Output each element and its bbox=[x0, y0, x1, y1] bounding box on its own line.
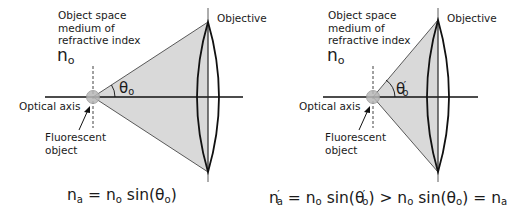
formula-function: sin( bbox=[127, 186, 155, 204]
object-label-line: Fluorescent bbox=[325, 131, 386, 144]
formula-term: n bbox=[306, 189, 316, 207]
formula-left: na = no sin(θo) bbox=[67, 186, 177, 209]
fluorescent-object-right bbox=[367, 91, 380, 104]
formula-term: n bbox=[491, 189, 501, 207]
formula-subscript: a bbox=[77, 194, 83, 205]
theta-subscript: o bbox=[128, 86, 134, 97]
formula-term: n bbox=[397, 189, 407, 207]
medium-label-line: refractive index bbox=[58, 34, 141, 47]
medium-label-line: medium of bbox=[328, 22, 411, 35]
formula-paren: ) bbox=[462, 189, 468, 207]
object-label-line: object bbox=[45, 144, 106, 157]
medium-label-line: refractive index bbox=[328, 34, 411, 47]
arrow-head-right bbox=[364, 106, 370, 113]
theta-symbol: θ bbox=[119, 79, 128, 97]
objective-label-right: Objective bbox=[447, 12, 497, 25]
object-label-line: object bbox=[325, 144, 386, 157]
objective-label-left: Objective bbox=[217, 12, 267, 25]
formula-subscript: a bbox=[277, 196, 283, 207]
medium-index-symbol-right: no bbox=[327, 47, 345, 69]
formula-operator: = bbox=[88, 186, 101, 204]
formula-function: sin( bbox=[327, 189, 355, 207]
fluorescent-object-label-right: Fluorescent object bbox=[325, 131, 386, 156]
optical-axis-label-right: Optical axis bbox=[299, 100, 360, 113]
formula-term: θ bbox=[155, 186, 164, 204]
fluorescent-object-label-left: Fluorescent object bbox=[45, 131, 106, 156]
formula-paren: ) bbox=[171, 186, 177, 204]
n-symbol: n bbox=[57, 45, 68, 65]
object-label-line: Fluorescent bbox=[45, 131, 106, 144]
theta-subscript: o bbox=[403, 87, 409, 98]
formula-function: sin( bbox=[418, 189, 446, 207]
numerical-aperture-diagram: Object space medium of refractive index … bbox=[0, 0, 520, 211]
medium-label-line: medium of bbox=[58, 22, 141, 35]
formula-paren: ) bbox=[368, 189, 374, 207]
arrow-shaft-right bbox=[359, 110, 368, 130]
medium-index-symbol-left: no bbox=[57, 47, 75, 69]
formula-operator: = bbox=[288, 189, 301, 207]
angle-label-right: θ′o bbox=[396, 78, 409, 100]
arrow-shaft-left bbox=[79, 110, 88, 130]
arrow-head-left bbox=[84, 106, 90, 113]
formula-subscript: o bbox=[316, 196, 322, 207]
formula-subscript: a bbox=[501, 196, 507, 207]
optical-axis-label-left: Optical axis bbox=[19, 100, 80, 113]
n-subscript: o bbox=[68, 54, 75, 67]
angle-label-left: θo bbox=[119, 81, 134, 99]
medium-label-line: Object space bbox=[328, 9, 411, 22]
n-subscript: o bbox=[338, 54, 345, 67]
formula-term: θ bbox=[447, 189, 456, 207]
medium-label-left: Object space medium of refractive index bbox=[58, 9, 141, 47]
medium-label-line: Object space bbox=[58, 9, 141, 22]
medium-label-right: Object space medium of refractive index bbox=[328, 9, 411, 47]
formula-operator: > bbox=[379, 189, 392, 207]
formula-operator: = bbox=[473, 189, 486, 207]
n-symbol: n bbox=[327, 45, 338, 65]
fluorescent-object-left bbox=[87, 91, 100, 104]
formula-right: n′a = no sin(θ′o) > no sin(θo) = na bbox=[269, 186, 507, 211]
formula-subscript: o bbox=[116, 194, 122, 205]
formula-term: n bbox=[67, 186, 77, 204]
formula-subscript: o bbox=[407, 196, 413, 207]
formula-term: n bbox=[106, 186, 116, 204]
